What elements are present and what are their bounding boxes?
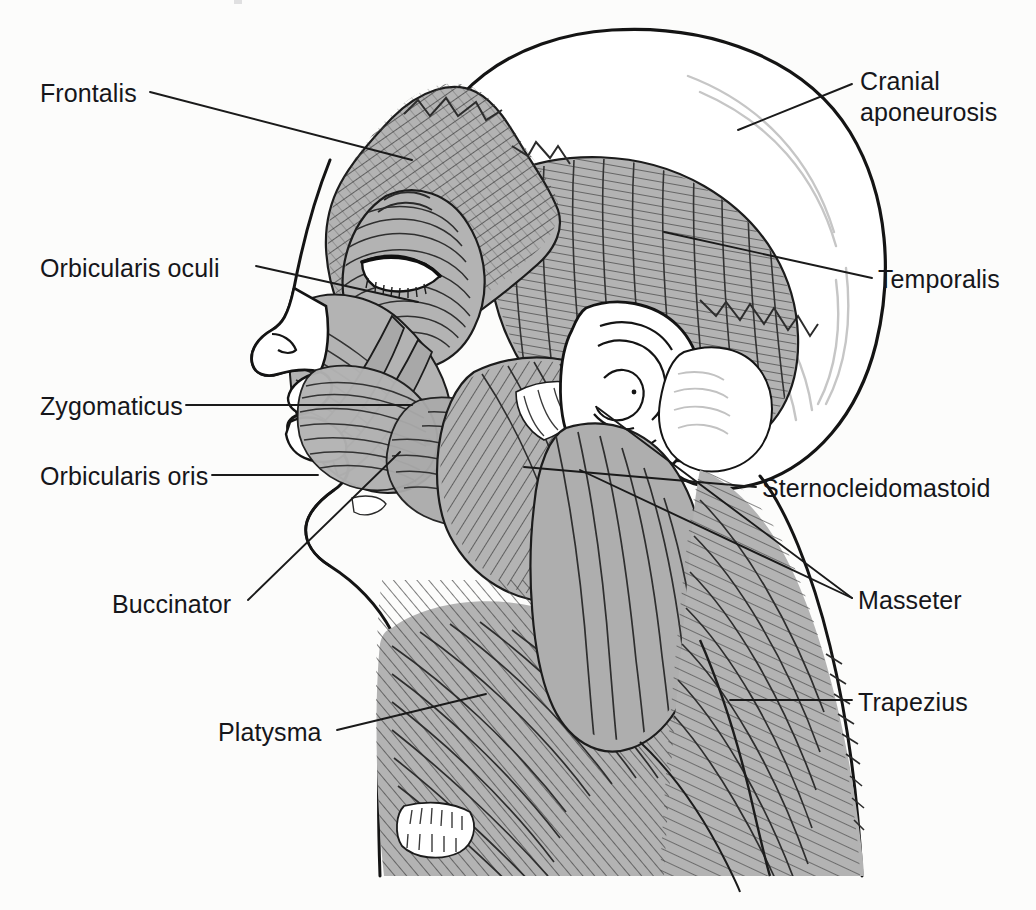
label-masseter: Masseter — [858, 585, 962, 616]
figure-canvas: Frontalis Orbicularis oculi Zygomaticus … — [0, 0, 1036, 910]
label-cranial-aponeurosis: Cranial aponeurosis — [860, 66, 997, 127]
mastoid-region — [659, 347, 772, 471]
label-sternocleidomastoid: Sternocleidomastoid — [762, 473, 990, 504]
label-frontalis: Frontalis — [40, 78, 137, 109]
label-temporalis: Temporalis — [878, 264, 1000, 295]
label-orbicularis-oculi: Orbicularis oculi — [40, 253, 220, 284]
label-trapezius: Trapezius — [858, 687, 968, 718]
ear-marker — [632, 390, 637, 395]
clavicle — [397, 803, 474, 858]
label-buccinator: Buccinator — [112, 589, 231, 620]
label-orbicularis-oris: Orbicularis oris — [40, 461, 208, 492]
scan-artifact — [234, 0, 242, 4]
label-zygomaticus: Zygomaticus — [40, 391, 183, 422]
head-neck-muscle-diagram — [0, 0, 1036, 910]
label-platysma: Platysma — [218, 717, 322, 748]
